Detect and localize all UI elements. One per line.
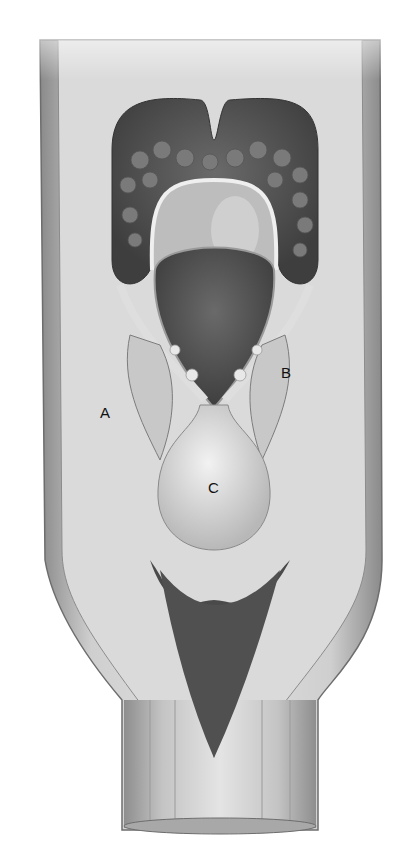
anatomy-illustration: A B C [0, 0, 417, 854]
label-b: B [281, 364, 291, 381]
label-a: A [100, 404, 110, 421]
esophagus-opening [124, 818, 316, 834]
label-c: C [208, 479, 219, 496]
top-fade [0, 0, 417, 80]
